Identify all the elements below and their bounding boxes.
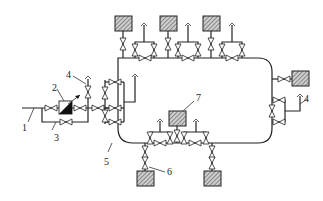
inlet-assembly: [22, 76, 118, 125]
label-5: 5: [104, 156, 109, 167]
consumer-tank-icon: [115, 16, 132, 31]
label-7: 7: [196, 92, 201, 103]
outlet-valve-icon: [74, 105, 86, 111]
left-cluster-valve-icon: [102, 110, 108, 122]
label-6: 6: [167, 166, 172, 177]
tank-valve-icon: [208, 38, 214, 50]
left-cluster-valve-icon: [109, 79, 121, 85]
callout-labels: 1 2 3 4 4 5 6 7: [22, 69, 309, 177]
consumer-tank-icon: [160, 16, 177, 31]
ring-valve-icon: [154, 140, 166, 146]
vent-valve-icon: [195, 44, 201, 56]
vent-valve-icon: [203, 132, 209, 144]
consumer-tank-icon: [204, 171, 221, 186]
consumer-tank-icon: [292, 71, 309, 86]
vent-valve-icon: [175, 44, 181, 56]
ring-main-pipe: [118, 58, 272, 143]
left-cluster-valve-icon: [102, 87, 108, 99]
vent-valve-icon: [239, 44, 245, 56]
vent-valve-icon: [147, 132, 153, 144]
left-cluster-valve-icon: [109, 105, 121, 111]
tank-valve-icon: [142, 157, 148, 169]
right-branches: [269, 71, 309, 125]
label-2: 2: [52, 82, 57, 93]
label-3: 3: [54, 132, 59, 143]
label-4-left: 4: [66, 69, 71, 80]
left-cluster-valve-icon: [109, 119, 121, 125]
consumer-tank-icon: [137, 171, 154, 186]
ring-valve-icon: [226, 55, 238, 61]
tank-valve-icon: [278, 76, 290, 82]
ring-valve-icon: [269, 105, 275, 117]
label-4-right: 4: [304, 93, 309, 104]
ring-valve-icon: [139, 55, 151, 61]
vent-valve-icon: [219, 44, 225, 56]
ring-valve-icon: [189, 140, 201, 146]
tank-valve-icon: [120, 38, 126, 50]
consumer-tank-icon: [203, 16, 220, 31]
tank-valve-icon: [209, 146, 215, 158]
tank-valve-icon: [209, 157, 215, 169]
tank-valve-icon: [165, 38, 171, 50]
consumer-tank-icon: [169, 111, 186, 126]
bypass-valve-icon: [60, 119, 72, 125]
label-1: 1: [22, 122, 27, 133]
left-branch-cluster: [102, 74, 138, 125]
tank-valve-icon: [142, 146, 148, 158]
bottom-consumers: [137, 143, 221, 186]
tank-valve-icon: [174, 130, 180, 142]
vent-cap-icon: [85, 76, 91, 79]
top-branches: [115, 16, 245, 61]
vent-valve-icon: [273, 97, 285, 103]
vent-valve-icon: [273, 119, 285, 125]
vent-valve-icon: [132, 44, 138, 56]
ring-valve-icon: [182, 55, 194, 61]
vent-valve-icon: [85, 86, 91, 98]
vent-valve-icon: [151, 44, 157, 56]
vent-valve-icon: [181, 132, 187, 144]
vent-valve-icon: [167, 132, 173, 144]
pipeline-diagram: 1 2 3 4 4 5 6 7: [0, 0, 323, 201]
inlet-valve-icon: [45, 105, 57, 111]
bottom-inner-cluster: [147, 111, 209, 146]
